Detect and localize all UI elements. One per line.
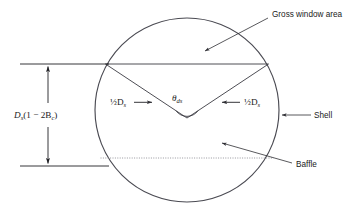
shell-circle — [95, 18, 279, 202]
half-diameter-label-left: ½Ds — [110, 97, 127, 108]
shell-baffle-diagram: Ds(1 − 2Bc) ½Ds ½Ds θds Gross window are… — [0, 0, 364, 218]
leader-baffle — [222, 143, 292, 163]
half-diameter-label-right: ½Ds — [244, 97, 261, 108]
diagram-canvas: Ds(1 − 2Bc) ½Ds ½Ds θds Gross window are… — [0, 0, 364, 218]
label-baffle: Baffle — [296, 160, 317, 169]
theta-angle-label: θds — [172, 93, 183, 104]
label-shell: Shell — [314, 111, 332, 120]
angle-arc — [176, 111, 198, 117]
label-gross-window-area: Gross window area — [272, 10, 343, 19]
radius-leg-left — [106, 64, 188, 118]
dimension-label: Ds(1 − 2Bc) — [13, 110, 57, 121]
leader-gross-window-area — [205, 18, 268, 51]
radius-leg-right — [187, 64, 269, 118]
